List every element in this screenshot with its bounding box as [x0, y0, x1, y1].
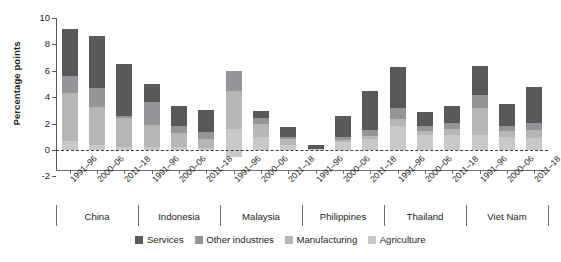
bar-segment: [144, 102, 160, 124]
legend-label: Manufacturing: [296, 234, 357, 245]
bar: [362, 0, 378, 262]
bar-segment: [198, 132, 214, 139]
bar-segment: [417, 126, 433, 131]
bar: [171, 0, 187, 262]
bar: [526, 0, 542, 262]
bar-segment: [280, 137, 296, 140]
bar-segment: [444, 106, 460, 123]
bar-segment: [526, 138, 542, 150]
bar-segment: [308, 145, 324, 148]
bar-segment: [335, 137, 351, 140]
bar-segment: [499, 104, 515, 125]
bar-segment: [335, 140, 351, 142]
bar-segment: [253, 124, 269, 137]
legend-label: Services: [147, 234, 184, 245]
bar-segment: [390, 67, 406, 108]
bar-segment: [198, 139, 214, 148]
group-separator: [548, 205, 549, 226]
bar-segment: [362, 91, 378, 129]
bar: [62, 0, 78, 262]
bar-segment: [226, 129, 242, 150]
group-label: Indonesia: [138, 211, 220, 222]
legend-label: Agriculture: [380, 234, 426, 245]
bar-segment: [116, 118, 132, 147]
legend-item[interactable]: Agriculture: [368, 234, 425, 245]
bar-segment: [116, 116, 132, 119]
legend-item[interactable]: Other industries: [195, 234, 274, 245]
bar-segment: [335, 142, 351, 150]
bar: [444, 0, 460, 262]
bar: [280, 0, 296, 262]
bar: [198, 0, 214, 262]
y-tick-label: 0: [30, 145, 50, 155]
bar-segment: [499, 126, 515, 131]
bar-segment: [253, 111, 269, 118]
legend-swatch-icon: [368, 236, 376, 244]
legend-swatch-icon: [135, 236, 143, 244]
bar-segment: [499, 131, 515, 137]
group-label: Viet Nam: [466, 211, 548, 222]
bar-segment: [390, 108, 406, 119]
bar-segment: [526, 130, 542, 138]
bar-segment: [335, 116, 351, 136]
bar-segment: [390, 119, 406, 126]
bar-segment: [89, 36, 105, 88]
bar: [499, 0, 515, 262]
bar-segment: [62, 93, 78, 141]
bar-segment: [472, 108, 488, 134]
y-tick-label: 8: [30, 39, 50, 49]
bar-segment: [171, 133, 187, 148]
y-tick-label: -2: [30, 171, 50, 181]
group-label: China: [56, 211, 138, 222]
bar-segment: [89, 88, 105, 107]
y-tick-label: 10: [30, 13, 50, 23]
bar-segment: [226, 91, 242, 129]
bar-segment: [171, 106, 187, 126]
bar-segment: [253, 118, 269, 125]
bar: [472, 0, 488, 262]
bar-segment: [144, 84, 160, 102]
legend-label: Other industries: [206, 234, 274, 245]
bar: [226, 0, 242, 262]
bar-segment: [62, 141, 78, 150]
bar-segment: [390, 126, 406, 150]
bar-segment: [444, 135, 460, 150]
bar-segment: [171, 126, 187, 133]
bar-segment: [89, 107, 105, 145]
bar-segment: [499, 137, 515, 150]
bar-segment: [417, 131, 433, 135]
bar-segment: [362, 130, 378, 137]
bar-segment: [444, 129, 460, 135]
bar: [253, 0, 269, 262]
bar-segment: [472, 95, 488, 108]
y-tick-label: 6: [30, 66, 50, 76]
group-label: Philippines: [302, 211, 384, 222]
bar: [144, 0, 160, 262]
y-tick-label: 4: [30, 92, 50, 102]
bar-segment: [362, 139, 378, 150]
zero-reference-line: [56, 150, 548, 151]
group-label: Thailand: [384, 211, 466, 222]
bar-segment: [472, 66, 488, 95]
chart-legend: ServicesOther industriesManufacturingAgr…: [0, 234, 561, 245]
bar: [116, 0, 132, 262]
bar-segment: [362, 136, 378, 139]
bar: [390, 0, 406, 262]
bar-segment: [144, 125, 160, 147]
bar-segment: [198, 110, 214, 132]
bar-segment: [526, 87, 542, 123]
group-label: Malaysia: [220, 211, 302, 222]
legend-item[interactable]: Services: [135, 234, 183, 245]
bar: [335, 0, 351, 262]
legend-item[interactable]: Manufacturing: [285, 234, 357, 245]
bar: [417, 0, 433, 262]
bar-segment: [444, 123, 460, 129]
legend-swatch-icon: [195, 236, 203, 244]
y-axis-title: Percentage points: [11, 24, 22, 144]
bar-segment: [280, 127, 296, 137]
y-tick-label: 2: [30, 119, 50, 129]
bar-segment: [62, 76, 78, 93]
legend-swatch-icon: [285, 236, 293, 244]
bar-segment: [226, 71, 242, 91]
bar-segment: [116, 64, 132, 116]
